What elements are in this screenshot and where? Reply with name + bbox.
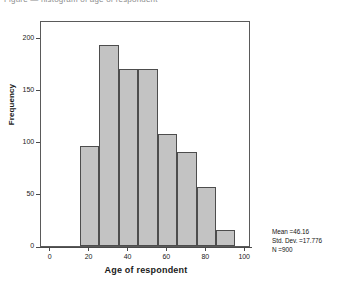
x-tick-mark (127, 247, 128, 251)
stat-n: N =900 (272, 245, 322, 254)
x-axis: 020406080100 (40, 247, 252, 267)
x-axis-line (40, 247, 252, 248)
y-tick-label: 50 (26, 190, 34, 197)
y-axis-label: Frequency (7, 65, 16, 145)
histogram-bar (177, 152, 196, 246)
histogram-bar (119, 69, 138, 246)
x-tick-label: 100 (235, 253, 253, 260)
statistics-annotation: Mean =46.16 Std. Dev. =17.776 N =900 (272, 227, 322, 254)
histogram-bar (99, 45, 118, 246)
x-tick-mark (205, 247, 206, 251)
x-tick-mark (244, 247, 245, 251)
x-tick-label: 60 (157, 253, 175, 260)
y-tick-mark (36, 194, 40, 195)
y-tick-label: 200 (23, 34, 34, 41)
histogram-bar (138, 69, 157, 246)
y-tick-label: 150 (23, 86, 34, 93)
x-tick-mark (166, 247, 167, 251)
y-tick-label: 100 (23, 138, 34, 145)
x-tick-label: 40 (119, 253, 137, 260)
x-tick-label: 20 (80, 253, 98, 260)
histogram-bar (197, 187, 216, 246)
x-tick-mark (88, 247, 89, 251)
x-tick-mark (49, 247, 50, 251)
histogram-bar (216, 230, 235, 246)
cropped-caption-strip: Figure — histogram of age of respondent (0, 0, 341, 9)
y-tick-mark (36, 38, 40, 39)
x-tick-label: 80 (196, 253, 214, 260)
x-tick-label: 0 (41, 253, 59, 260)
stat-std-dev: Std. Dev. =17.776 (272, 236, 322, 245)
y-tick-mark (36, 142, 40, 143)
plot-frame (40, 21, 250, 247)
histogram-bar (80, 146, 99, 246)
stat-mean: Mean =46.16 (272, 227, 322, 236)
y-tick-label: 0 (30, 242, 34, 249)
y-tick-mark (36, 90, 40, 91)
histogram-bar (158, 134, 177, 246)
x-axis-label: Age of respondent (40, 265, 252, 275)
cropped-caption-text: Figure — histogram of age of respondent (4, 0, 158, 4)
